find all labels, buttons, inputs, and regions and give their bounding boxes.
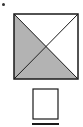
answer-underline <box>32 123 59 125</box>
diagram-canvas <box>0 0 83 127</box>
main-square <box>14 14 78 79</box>
answer-square-border <box>33 89 58 119</box>
answer-square <box>32 89 59 125</box>
